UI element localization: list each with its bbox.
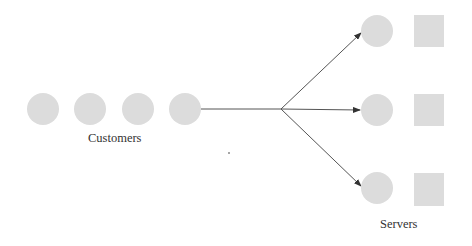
server-customer-node bbox=[361, 15, 393, 47]
customer-node bbox=[74, 93, 106, 125]
servers bbox=[361, 15, 444, 206]
customer-node bbox=[122, 93, 154, 125]
arrow-to-server-1 bbox=[281, 33, 361, 109]
flow-edges bbox=[201, 33, 361, 186]
customers-label: Customers bbox=[88, 131, 141, 146]
scan-speck bbox=[228, 152, 230, 154]
server-node bbox=[414, 94, 444, 126]
customer-node bbox=[27, 93, 59, 125]
server-customer-node bbox=[361, 172, 393, 204]
queue-diagram bbox=[0, 0, 472, 246]
customer-node bbox=[169, 93, 201, 125]
server-customer-node bbox=[361, 94, 393, 126]
arrow-to-server-3 bbox=[281, 109, 361, 186]
servers-label: Servers bbox=[380, 217, 418, 232]
server-node bbox=[414, 15, 444, 47]
customers-queue bbox=[27, 93, 201, 125]
server-node bbox=[414, 173, 444, 206]
arrow-to-server-2 bbox=[281, 109, 360, 110]
